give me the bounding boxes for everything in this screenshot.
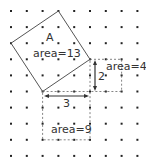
grid-dot	[26, 42, 28, 44]
arrow-head-down-icon	[93, 86, 97, 91]
grid-dot	[121, 139, 123, 141]
grid-dot	[73, 26, 75, 28]
grid-dot	[10, 123, 12, 125]
grid-dot	[57, 74, 59, 76]
grid-dot	[136, 26, 138, 28]
grid-dot	[57, 26, 59, 28]
grid-dot	[89, 42, 91, 44]
grid-dot	[121, 155, 123, 157]
arrow-head-left-icon	[44, 94, 49, 98]
grid-dot	[10, 91, 12, 93]
grid-dot	[57, 107, 59, 109]
grid-dot	[136, 91, 138, 93]
grid-dot	[26, 74, 28, 76]
grid-dot	[10, 139, 12, 141]
arrow-head-up-icon	[93, 60, 97, 65]
horizontal-measure-label: 3	[63, 97, 70, 110]
grid-dot	[26, 139, 28, 141]
grid-dot	[10, 26, 12, 28]
grid-dot	[89, 10, 91, 12]
grid-dot	[136, 123, 138, 125]
square-a-label: A	[46, 31, 54, 44]
dot-grid-diagram: A area=13 area=4 area=9 2 3	[0, 0, 146, 160]
grid-dot	[136, 155, 138, 157]
vertical-measure-label: 2	[98, 70, 105, 83]
square-a-area-label: area=13	[33, 47, 81, 60]
grid-dot	[136, 42, 138, 44]
square-4-area-label: area=4	[106, 60, 146, 73]
square-9-area-label: area=9	[51, 123, 92, 136]
grid-dot	[105, 107, 107, 109]
grid-dot	[105, 123, 107, 125]
grid-dot	[42, 123, 44, 125]
grid-dot	[73, 74, 75, 76]
grid-dot	[121, 26, 123, 28]
grid-dot	[105, 155, 107, 157]
grid-dot	[42, 10, 44, 12]
grid-dot	[26, 107, 28, 109]
grid-dot	[26, 26, 28, 28]
grid-dot	[10, 74, 12, 76]
grid-dot	[105, 10, 107, 12]
grid-dot	[57, 42, 59, 44]
grid-dot	[42, 139, 44, 141]
grid-dot	[10, 155, 12, 157]
grid-dot	[121, 123, 123, 125]
grid-dot	[42, 26, 44, 28]
grid-dot	[57, 155, 59, 157]
grid-dot	[73, 107, 75, 109]
grid-dot	[105, 26, 107, 28]
vertical-arrow-2	[93, 60, 97, 91]
grid-dot	[73, 42, 75, 44]
grid-dot	[26, 155, 28, 157]
grid-dot	[136, 107, 138, 109]
grid-dot	[105, 74, 107, 76]
grid-dot	[121, 42, 123, 44]
grid-dot	[26, 10, 28, 12]
grid-dot	[105, 42, 107, 44]
grid-dot	[73, 155, 75, 157]
arrow-head-right-icon	[84, 94, 89, 98]
grid-dot	[121, 10, 123, 12]
grid-dot	[136, 10, 138, 12]
grid-dot	[121, 107, 123, 109]
grid-dot	[26, 58, 28, 60]
grid-dot	[42, 42, 44, 44]
grid-dot	[105, 139, 107, 141]
grid-dot	[10, 107, 12, 109]
grid-dot	[26, 91, 28, 93]
grid-dot	[10, 10, 12, 12]
grid-dot	[89, 26, 91, 28]
grid-dot	[42, 155, 44, 157]
grid-dot	[42, 74, 44, 76]
grid-dot	[73, 10, 75, 12]
grid-dot	[26, 123, 28, 125]
grid-dot	[136, 74, 138, 76]
grid-dot	[10, 58, 12, 60]
grid-dot	[136, 139, 138, 141]
grid-dot	[89, 155, 91, 157]
